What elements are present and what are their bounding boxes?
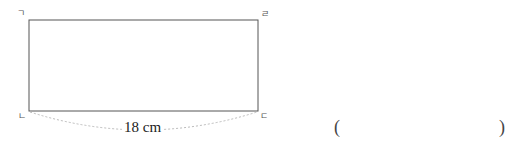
vertex-label-bottom-left: ㄴ: [18, 112, 26, 121]
vertex-label-top-left: ㄱ: [17, 9, 25, 18]
answer-close-paren: ): [499, 118, 505, 136]
vertex-label-bottom-right: ㄷ: [260, 112, 268, 121]
dimension-label: 18 cm: [122, 120, 163, 135]
vertex-label-top-right: ㄹ: [261, 10, 269, 19]
answer-open-paren: (: [334, 118, 340, 136]
rectangle-shape: [29, 20, 258, 111]
diagram-canvas: ㄱ ㄹ ㄴ ㄷ 18 cm ( ): [0, 0, 510, 148]
answer-blank[interactable]: [345, 118, 490, 138]
